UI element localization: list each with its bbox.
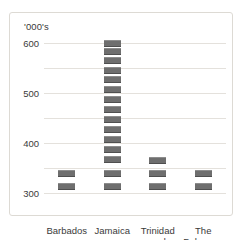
x-tick-label: Jamaica <box>90 226 136 228</box>
x-tick-label: Trinidad and Tobago <box>135 226 181 228</box>
chart-frame: '000's 0100200300400500600BarbadosJamaic… <box>9 12 233 216</box>
y-tick-label: 500 <box>23 88 39 99</box>
y-tick-label: 300 <box>23 188 39 199</box>
gridline: 0 <box>44 193 226 194</box>
bar-segment <box>195 170 212 177</box>
plot-area: 0100200300400500600BarbadosJamaicaTrinid… <box>44 43 226 193</box>
y-tick-label: 600 <box>23 38 39 49</box>
x-tick-label: The Bahamas <box>181 226 227 228</box>
bar-column[interactable] <box>44 43 226 193</box>
x-tick-label: Barbados <box>44 226 90 228</box>
bar-segment <box>195 183 212 190</box>
y-axis-unit-label: '000's <box>24 21 49 32</box>
y-tick-label: 400 <box>23 138 39 149</box>
